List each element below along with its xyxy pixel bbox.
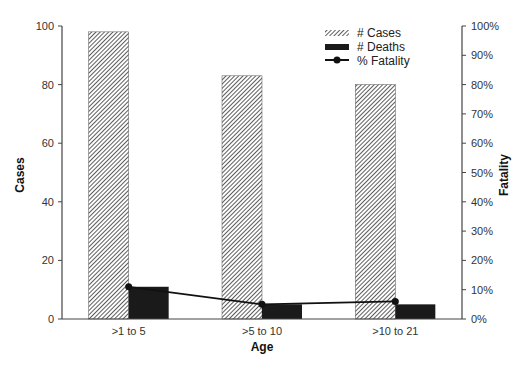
legend-cases-swatch — [325, 30, 349, 36]
deaths-bar — [262, 304, 302, 319]
x-tick-label: >5 to 10 — [242, 325, 282, 337]
y-tick-label: 80 — [42, 79, 54, 91]
y-tick-label: 40 — [42, 196, 54, 208]
y2-tick-label: 80% — [471, 79, 493, 91]
y2-tick-label: 60% — [471, 137, 493, 149]
legend-deaths-swatch — [325, 44, 349, 50]
fatality-point — [392, 298, 399, 305]
y-axis-label: Cases — [13, 157, 27, 193]
x-axis-label: Age — [251, 340, 274, 354]
y-tick-label: 60 — [42, 137, 54, 149]
bars-group: >1 to 5>5 to 10>10 to 21 — [89, 32, 436, 337]
y2-tick-label: 10% — [471, 284, 493, 296]
y2-tick-label: 30% — [471, 225, 493, 237]
cases-bar — [89, 32, 129, 319]
legend-fatality-marker — [334, 57, 341, 64]
y2-tick-label: 20% — [471, 254, 493, 266]
x-tick-label: >1 to 5 — [112, 325, 146, 337]
y-tick-label: 100 — [36, 20, 54, 32]
cases-bar — [222, 76, 262, 319]
legend-deaths-label: # Deaths — [357, 40, 405, 54]
fatality-point — [259, 301, 266, 308]
y2-tick-label: 100% — [471, 20, 499, 32]
fatality-point — [125, 283, 132, 290]
y2-tick-label: 50% — [471, 167, 493, 179]
legend: # Cases # Deaths % Fatality — [325, 26, 410, 68]
cases-bar — [355, 85, 395, 319]
y2-axis-label: Fatality — [497, 154, 511, 196]
y-tick-label: 0 — [48, 313, 54, 325]
y2-tick-label: 40% — [471, 196, 493, 208]
y-tick-label: 20 — [42, 254, 54, 266]
combo-chart: >1 to 5>5 to 10>10 to 21 0204060801000%1… — [0, 0, 525, 368]
deaths-bar — [395, 304, 435, 319]
x-tick-label: >10 to 21 — [372, 325, 418, 337]
legend-fatality-label: % Fatality — [357, 54, 410, 68]
legend-cases-label: # Cases — [357, 26, 401, 40]
y2-tick-label: 90% — [471, 49, 493, 61]
y2-tick-label: 0% — [471, 313, 487, 325]
y2-tick-label: 70% — [471, 108, 493, 120]
